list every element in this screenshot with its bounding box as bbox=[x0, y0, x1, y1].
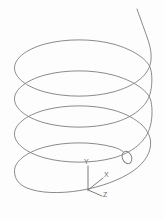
helix-curve bbox=[15, 9, 153, 162]
axis-label-x: X bbox=[104, 171, 109, 178]
coordinate-axis-triad: Y X Z bbox=[84, 158, 109, 198]
axis-label-z: Z bbox=[103, 191, 108, 198]
helix-diagram-svg: Y X Z bbox=[0, 0, 164, 219]
helix-endpoint-marker-icon bbox=[120, 150, 133, 165]
helix-figure-canvas: Y X Z bbox=[0, 0, 164, 219]
axis-label-y: Y bbox=[84, 158, 89, 165]
axis-line-x bbox=[88, 178, 103, 190]
helix-tail-curve bbox=[15, 125, 151, 193]
axis-line-z bbox=[88, 190, 102, 196]
